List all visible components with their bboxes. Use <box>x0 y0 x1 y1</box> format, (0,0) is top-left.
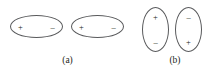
figure-panel-a: + – + – (a) <box>0 0 135 74</box>
dipole-ellipse-b1: + – <box>142 7 169 52</box>
charge-sign-positive: + <box>77 22 86 31</box>
dipole-ellipse-a1: + – <box>10 15 63 38</box>
charge-sign-negative: – <box>151 38 160 47</box>
charge-sign-positive: + <box>16 22 25 31</box>
panel-caption-a: (a) <box>0 56 135 66</box>
dipole-figure: + – + – (a) + – – + (b) <box>0 0 215 74</box>
charge-sign-negative: – <box>184 13 193 22</box>
charge-sign-positive: + <box>184 38 193 47</box>
dipole-ellipse-a2: + – <box>71 15 124 38</box>
dipole-ellipse-b2: – + <box>175 7 202 52</box>
charge-sign-negative: – <box>48 22 57 31</box>
charge-sign-negative: – <box>109 22 118 31</box>
figure-panel-b: + – – + (b) <box>135 0 215 74</box>
charge-sign-positive: + <box>151 13 160 22</box>
panel-caption-b: (b) <box>135 56 215 66</box>
